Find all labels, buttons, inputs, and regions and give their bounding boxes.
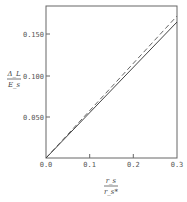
y-axis-label: Δ_L E_s <box>6 70 21 89</box>
x-axis-label: r_s r_s* <box>104 177 118 196</box>
y-tick-label: 0.100 <box>23 73 44 81</box>
chart: 0.050 0.100 0.150 0.0 0.1 0.2 0.3 Δ_L E_… <box>0 0 187 202</box>
y-tick-label: 0.150 <box>23 31 44 39</box>
y-label-numerator: Δ_L <box>6 70 21 78</box>
y-label-denominator: E_s <box>7 81 21 89</box>
y-tick-label: 0.050 <box>23 114 44 122</box>
x-tick-label: 0.2 <box>127 161 140 169</box>
x-label-denominator: r_s* <box>104 188 118 196</box>
plot-frame <box>46 6 177 158</box>
series-dashed-line <box>46 16 177 158</box>
series-solid-line <box>46 22 177 158</box>
x-tick-label: 0.3 <box>171 161 184 169</box>
x-axis: 0.0 0.1 0.2 0.3 <box>40 154 184 169</box>
x-tick-label: 0.0 <box>40 161 53 169</box>
x-tick-label: 0.1 <box>83 161 96 169</box>
x-label-numerator: r_s <box>106 177 117 185</box>
